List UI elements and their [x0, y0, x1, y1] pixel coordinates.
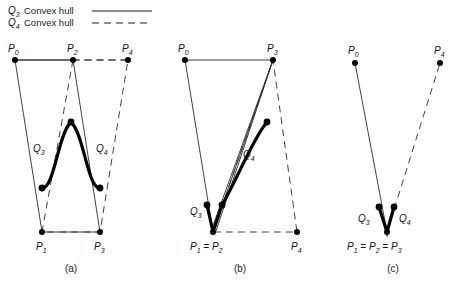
panel-b-point-p0: [182, 57, 188, 63]
panel-a-curve-start-dot: [39, 185, 46, 192]
panel-a-label-p0: P0: [8, 43, 19, 56]
panel-c-point-p1-p2-p3: [384, 229, 390, 235]
panel-b-point-p4: [294, 229, 300, 235]
panel-b-point-p3: [270, 57, 276, 63]
panel-b-hull-q3: [185, 60, 273, 232]
panel-b-label-p3: P3: [267, 43, 278, 56]
panel-a-curve-peak-dot: [68, 119, 75, 126]
panel-a-curve-end-dot: [97, 185, 104, 192]
panel-b-label-p1-p2: P1 = P2: [190, 241, 223, 254]
panel-a-curve: [42, 122, 100, 188]
panel-c-label-p0: P0: [348, 45, 359, 58]
panel-c-point-p0: [352, 60, 358, 66]
figure-canvas: Q3 Convex hull Q4 Convex hull: [0, 0, 460, 282]
panel-a-point-p0: [12, 57, 18, 63]
panel-b-q4-mid-dot: [219, 202, 226, 209]
panel-a-label-p4: P4: [122, 43, 133, 56]
panel-c-label-q4: Q4: [399, 213, 411, 226]
panel-b-q3-start-dot: [204, 202, 211, 209]
legend-label-q3: Convex hull: [24, 5, 74, 16]
panel-a-hull-q4: [42, 60, 128, 232]
panel-a-point-p2: [70, 57, 76, 63]
panel-a-label-p3: P3: [94, 241, 105, 254]
panel-b-label-q3: Q3: [190, 206, 202, 219]
panel-a-label-p1: P1: [36, 241, 47, 254]
panel-b-point-p1-p2: [210, 229, 216, 235]
panel-b-caption: (b): [234, 263, 246, 274]
panel-c-v-right-dot: [391, 204, 398, 211]
panel-a-label-q3: Q3: [33, 143, 45, 156]
panel-a-point-p1: [39, 229, 45, 235]
panel-c-curve-v: [379, 207, 394, 232]
legend-symbol-q4: Q4: [8, 17, 20, 30]
panel-c: P0 P4 P1 = P2 = P3 Q3 Q4 (c): [347, 45, 445, 274]
panel-a-point-p3: [97, 229, 103, 235]
panel-b-label-p4: P4: [291, 241, 302, 254]
convex-hull-figure: Q3 Convex hull Q4 Convex hull: [0, 0, 460, 282]
panel-a-point-p4: [125, 57, 131, 63]
panel-b-curve-q3: [207, 205, 213, 232]
panel-a: P0 P2 P4 P1 P3 Q3 Q4 (a): [8, 43, 133, 274]
legend: Q3 Convex hull Q4 Convex hull: [8, 5, 152, 30]
panel-b-hull-q4: [213, 60, 297, 232]
legend-label-q4: Convex hull: [24, 17, 74, 28]
panel-c-label-p1-p2-p3: P1 = P2 = P3: [347, 241, 402, 254]
panel-a-label-q4: Q4: [96, 143, 108, 156]
panel-a-label-p2: P2: [67, 43, 78, 56]
panel-c-caption: (c): [387, 263, 399, 274]
panel-b: P0 P3 P1 = P2 P4 Q3 Q4 (b): [178, 43, 302, 274]
panel-c-v-left-dot: [376, 204, 383, 211]
panel-c-label-p4: P4: [434, 45, 445, 58]
panel-a-caption: (a): [65, 263, 77, 274]
panel-b-label-p0: P0: [178, 43, 189, 56]
panel-c-point-p4: [437, 60, 443, 66]
panel-b-q4-end-dot: [264, 119, 271, 126]
panel-c-label-q3: Q3: [358, 213, 370, 226]
